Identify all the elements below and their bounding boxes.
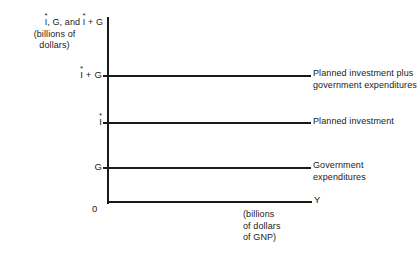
y-axis-caption-line-1: *I, G, and *I + G (45, 17, 103, 27)
origin-label: 0 (92, 204, 97, 214)
annotation-g-line-1: Government (313, 160, 364, 170)
y-tick-suffix-1: + G (83, 69, 102, 80)
figure-canvas: *I, G, and *I + G (billions of dollars) … (0, 0, 419, 258)
asterisk-icon-tick-1: * (80, 65, 83, 73)
y-tick-label-g: G (42, 162, 102, 172)
x-axis-caption: (billions of dollars of GNP) (243, 209, 317, 244)
x-axis-end-label: Y (314, 195, 320, 205)
i-star-glyph-tick-2: *I (99, 117, 102, 127)
y-axis-caption-middle: , G, and (47, 17, 82, 27)
y-axis-caption: *I, G, and *I + G (billions of dollars) (8, 17, 103, 52)
x-axis-line (107, 201, 312, 203)
y-axis-caption-line-3: dollars) (8, 40, 103, 52)
asterisk-icon-tick-2: * (99, 112, 102, 120)
i-star-glyph: *I (45, 17, 48, 29)
annotation-g-line-2: expenditures (313, 172, 366, 182)
level-line-g (108, 167, 311, 169)
asterisk-icon: * (44, 12, 47, 20)
y-axis-caption-line-2: (billions of (8, 29, 103, 41)
i-star-glyph-2: *I (83, 17, 86, 29)
y-axis-caption-suffix: + G (85, 17, 103, 27)
annotation-g: Government expenditures (313, 160, 417, 183)
level-line-i-plus-g (108, 75, 311, 77)
x-axis-caption-line-1: (billions (243, 209, 317, 221)
x-axis-caption-line-2: of dollars (243, 221, 317, 233)
y-tick-label-i: *I (42, 117, 102, 127)
asterisk-icon-2: * (82, 12, 85, 20)
annotation-i-line-1: Planned investment (313, 116, 394, 126)
annotation-i-plus-g-line-1: Planned investment (313, 68, 394, 78)
y-axis-line (107, 17, 109, 204)
annotation-i-plus-g-line-3: expenditures (364, 80, 417, 90)
annotation-i: Planned investment (313, 116, 417, 128)
annotation-i-plus-g: Planned investment plus government expen… (313, 68, 417, 91)
x-axis-caption-line-3: of GNP) (243, 232, 317, 244)
i-star-glyph-tick-1: *I (80, 70, 83, 80)
y-tick-label-i-plus-g: *I + G (42, 70, 102, 80)
level-line-i (108, 122, 311, 124)
